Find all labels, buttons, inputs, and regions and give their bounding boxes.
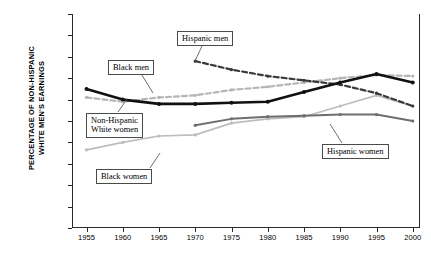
leader-hispanic-men [194, 44, 203, 63]
annotation-black-men: Black men [108, 60, 154, 75]
data-point [266, 74, 269, 77]
data-point [194, 124, 197, 127]
data-point [339, 104, 342, 107]
leader-black-women [150, 153, 160, 168]
leader-hispanic-women [330, 124, 342, 143]
series-line-black-men [87, 75, 413, 102]
data-point [411, 119, 414, 122]
data-point [230, 68, 233, 71]
data-point [375, 92, 378, 95]
data-point [266, 100, 270, 104]
annotation-nh-white-women: Non-Hispanic White women [86, 113, 143, 138]
data-point [266, 85, 269, 88]
data-point [230, 88, 233, 91]
data-point [411, 74, 414, 77]
data-point [157, 96, 160, 99]
data-point [339, 113, 342, 116]
data-point [230, 117, 233, 120]
data-point [193, 102, 197, 106]
data-point [194, 133, 197, 136]
data-point [121, 98, 125, 102]
annotation-black-women: Black women [96, 169, 152, 184]
data-point [194, 94, 197, 97]
data-point [157, 102, 161, 106]
annotation-hispanic-men: Hispanic men [177, 31, 233, 46]
data-point [338, 80, 342, 84]
data-point [85, 96, 88, 99]
data-point [157, 134, 160, 137]
data-point [266, 115, 269, 118]
annotation-hispanic-women: Hispanic women [322, 144, 389, 159]
data-point [411, 104, 414, 107]
leader-black-men [140, 72, 153, 93]
data-point [230, 122, 233, 125]
data-point [302, 114, 305, 117]
data-point [411, 80, 415, 84]
data-point [375, 72, 379, 76]
data-point [302, 90, 306, 94]
data-point [85, 148, 88, 151]
data-point [339, 77, 342, 80]
data-point [375, 113, 378, 116]
chart-figure: PERCENTAGE OF NON-HISPANIC WHITE MEN'S E… [0, 0, 431, 258]
data-point [85, 87, 89, 91]
data-point [121, 141, 124, 144]
data-point [302, 79, 305, 82]
data-point [230, 101, 234, 105]
